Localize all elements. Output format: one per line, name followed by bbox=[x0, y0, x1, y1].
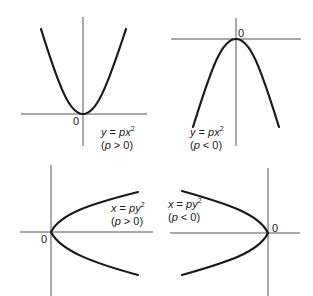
equation-label: y = px2 bbox=[100, 125, 135, 138]
condition-label: (p < 0) bbox=[168, 211, 200, 223]
panel-bottom-left: 0 x = py2 (p > 0) bbox=[20, 165, 153, 296]
condition-label: (p > 0) bbox=[101, 139, 133, 151]
equation-label: x = py2 bbox=[167, 197, 202, 210]
origin-label: 0 bbox=[272, 222, 278, 234]
origin-label: 0 bbox=[41, 233, 47, 245]
panel-top-right: 0 y = px2 (p < 0) bbox=[171, 18, 301, 151]
condition-label: (p < 0) bbox=[190, 139, 222, 151]
panel-bottom-right: 0 x = py2 (p < 0) bbox=[167, 168, 300, 296]
origin-label: 0 bbox=[73, 115, 79, 127]
parabola-diagram: 0 y = px2 (p > 0) 0 y = px2 (p < 0) 0 x … bbox=[0, 0, 313, 296]
origin-label: 0 bbox=[238, 27, 244, 39]
panel-top-left: 0 y = px2 (p > 0) bbox=[21, 17, 147, 151]
condition-label: (p > 0) bbox=[111, 215, 143, 227]
equation-label: x = py2 bbox=[110, 201, 145, 214]
equation-label: y = px2 bbox=[189, 125, 224, 138]
